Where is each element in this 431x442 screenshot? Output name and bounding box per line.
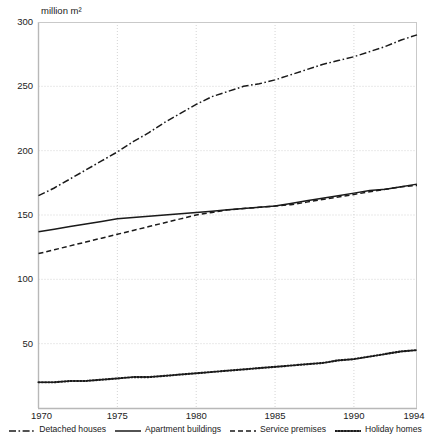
series-line-detached-houses	[39, 35, 418, 196]
legend-swatch-dotted-icon	[335, 426, 361, 433]
y-tick-label: 50	[3, 339, 33, 349]
series-line-holiday-homes	[39, 350, 418, 382]
line-chart: million m² 30025020015010050 19701975198…	[0, 0, 431, 442]
x-tick-label: 1990	[334, 411, 374, 421]
x-tick-label: 1994	[394, 411, 431, 421]
legend-item-apartment-buildings[interactable]: Apartment buildings	[115, 424, 221, 434]
chart-legend: Detached housesApartment buildingsServic…	[0, 424, 431, 434]
series-paths	[39, 35, 418, 382]
legend-label: Service premises	[260, 424, 326, 434]
x-tick-label: 1980	[176, 411, 216, 421]
legend-swatch-dashed-icon	[230, 426, 256, 433]
legend-label: Holiday homes	[365, 424, 422, 434]
legend-item-service-premises[interactable]: Service premises	[230, 424, 326, 434]
legend-label: Detached houses	[39, 424, 106, 434]
y-tick-label: 250	[3, 81, 33, 91]
plot-area	[0, 0, 431, 442]
legend-swatch-solid-icon	[115, 426, 141, 433]
gridlines	[39, 22, 418, 408]
y-tick-label: 150	[3, 210, 33, 220]
series-line-service-premises	[39, 185, 418, 253]
legend-item-detached-houses[interactable]: Detached houses	[9, 424, 106, 434]
y-tick-label: 300	[3, 17, 33, 27]
y-tick-label: 100	[3, 274, 33, 284]
x-tick-label: 1985	[255, 411, 295, 421]
legend-label: Apartment buildings	[145, 424, 221, 434]
y-tick-label: 200	[3, 146, 33, 156]
x-tick-label: 1975	[97, 411, 137, 421]
legend-swatch-dashdot-icon	[9, 426, 35, 433]
series-line-apartment-buildings	[39, 184, 418, 232]
legend-item-holiday-homes[interactable]: Holiday homes	[335, 424, 422, 434]
x-tick-label: 1970	[22, 411, 62, 421]
